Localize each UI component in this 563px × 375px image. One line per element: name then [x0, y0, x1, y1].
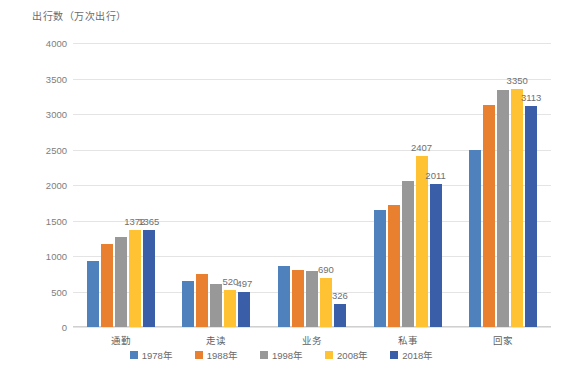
bar[interactable]: [497, 90, 509, 327]
bar[interactable]: 326: [334, 304, 346, 327]
bar-chart: 出行数（万次出行） 050010001500200025003000350040…: [0, 0, 563, 375]
bar-group: 33503113回家: [455, 43, 551, 327]
y-axis-tick-4000: 4000: [11, 38, 67, 49]
legend-swatch-icon: [260, 351, 268, 359]
legend-item[interactable]: 1988年: [195, 348, 238, 362]
bar[interactable]: 690: [320, 278, 332, 327]
y-axis-tick-2000: 2000: [11, 180, 67, 191]
legend-item[interactable]: 2018年: [390, 348, 433, 362]
bar[interactable]: [101, 244, 113, 327]
bar-value-label: 2011: [425, 171, 445, 181]
y-axis-tick-3000: 3000: [11, 109, 67, 120]
x-axis-category-label: 回家: [455, 333, 551, 347]
bar[interactable]: [469, 150, 481, 328]
chart-title: 出行数（万次出行）: [32, 8, 127, 23]
legend-label: 2018年: [402, 348, 433, 362]
y-axis-tick-0: 0: [11, 322, 67, 333]
legend-item[interactable]: 1978年: [130, 348, 173, 362]
legend-label: 1988年: [207, 348, 238, 362]
bar[interactable]: [196, 274, 208, 327]
bar[interactable]: [182, 281, 194, 327]
bar-group: 520497走读: [169, 43, 265, 327]
bar[interactable]: 1365: [143, 230, 155, 327]
legend-item[interactable]: 2008年: [325, 348, 368, 362]
bar-group: 690326业务: [264, 43, 360, 327]
legend-label: 1978年: [142, 348, 173, 362]
y-axis-tick-1000: 1000: [11, 251, 67, 262]
bar[interactable]: [374, 210, 386, 328]
bar[interactable]: [306, 271, 318, 327]
bar[interactable]: [483, 105, 495, 327]
bar[interactable]: 2407: [416, 156, 428, 327]
bar-value-label: 326: [332, 291, 348, 301]
bar[interactable]: 3350: [511, 89, 523, 327]
legend-label: 2008年: [337, 348, 368, 362]
gridline-0: [73, 327, 551, 328]
bar[interactable]: [87, 261, 99, 327]
bar-value-label: 1365: [138, 217, 159, 227]
x-axis-category-label: 私事: [360, 333, 456, 347]
bar[interactable]: 3113: [525, 106, 537, 327]
bar-group: 24072011私事: [360, 43, 456, 327]
bar[interactable]: [292, 270, 304, 327]
bar-value-label: 690: [318, 265, 334, 275]
legend-swatch-icon: [130, 351, 138, 359]
y-axis-tick-3500: 3500: [11, 73, 67, 84]
legend-swatch-icon: [325, 351, 333, 359]
plot-area: 05001000150020002500300035004000 1372136…: [73, 43, 551, 327]
y-axis-tick-2500: 2500: [11, 144, 67, 155]
legend-swatch-icon: [195, 351, 203, 359]
bar-value-label: 497: [236, 279, 252, 289]
legend-item[interactable]: 1998年: [260, 348, 303, 362]
bar[interactable]: [115, 237, 127, 327]
bar[interactable]: [278, 266, 290, 327]
x-axis-category-label: 业务: [264, 333, 360, 347]
bar[interactable]: 1372: [129, 230, 141, 327]
bar[interactable]: 497: [238, 292, 250, 327]
bar[interactable]: 2011: [430, 184, 442, 327]
x-axis-category-label: 通勤: [73, 333, 169, 347]
y-axis-tick-500: 500: [11, 286, 67, 297]
bar-groups: 13721365通勤520497走读690326业务24072011私事3350…: [73, 43, 551, 327]
x-axis-category-label: 走读: [169, 333, 265, 347]
bar-value-label: 2407: [411, 143, 432, 153]
bar-group: 13721365通勤: [73, 43, 169, 327]
bar[interactable]: [402, 181, 414, 327]
chart-legend: 1978年1988年1998年2008年2018年: [0, 348, 563, 362]
bar[interactable]: [210, 284, 222, 327]
y-axis-tick-1500: 1500: [11, 215, 67, 226]
legend-label: 1998年: [272, 348, 303, 362]
legend-swatch-icon: [390, 351, 398, 359]
bar-value-label: 3350: [507, 76, 528, 86]
bar[interactable]: [388, 205, 400, 327]
bar-value-label: 3113: [521, 93, 541, 103]
bar[interactable]: 520: [224, 290, 236, 327]
